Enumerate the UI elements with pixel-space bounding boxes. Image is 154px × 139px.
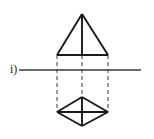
- figure-item-label: i): [10, 62, 17, 76]
- projection-drawing: [0, 0, 154, 139]
- lower-diamond-group: [57, 97, 108, 126]
- figure-container: i): [0, 0, 154, 139]
- triangle-right-edge: [82, 14, 108, 55]
- diamond-lower-left-edge: [57, 112, 82, 126]
- diamond-upper-right-edge: [82, 97, 108, 112]
- diamond-lower-right-edge: [82, 112, 108, 126]
- upper-triangle-group: [57, 14, 108, 55]
- triangle-left-edge: [57, 14, 82, 55]
- diamond-upper-left-edge: [57, 97, 82, 112]
